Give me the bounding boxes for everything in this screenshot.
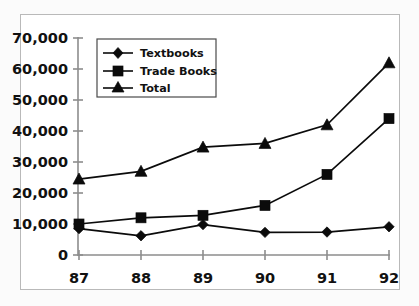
legend-label: Textbooks (140, 47, 204, 60)
y-tick-label: 60,000 (12, 61, 68, 77)
x-tick-label: 88 (131, 270, 151, 286)
square-marker (260, 200, 270, 210)
diamond-marker (260, 227, 270, 237)
square-marker (198, 210, 208, 220)
diamond-marker (198, 219, 208, 229)
series-line (79, 225, 389, 236)
x-tick-label: 90 (255, 270, 275, 286)
square-marker (74, 219, 84, 229)
triangle-marker (383, 57, 395, 68)
y-tick-label: 50,000 (12, 92, 68, 108)
y-axis-labels: 70,000 60,000 50,000 40,000 30,000 20,00… (12, 30, 68, 263)
legend-item-trade-books[interactable]: Trade Books (103, 65, 217, 78)
y-tick-label: 30,000 (12, 154, 68, 170)
diamond-marker (384, 222, 394, 232)
y-tick-label: 70,000 (12, 30, 68, 46)
series-textbooks (74, 219, 394, 241)
line-chart: 70,000 60,000 50,000 40,000 30,000 20,00… (0, 0, 419, 306)
x-axis-labels: 87 88 89 90 91 92 (69, 270, 399, 286)
square-marker (322, 169, 332, 179)
y-tick-label: 0 (58, 247, 68, 263)
chart-legend: Textbooks Trade Books Total (97, 39, 217, 97)
diamond-marker (322, 227, 332, 237)
y-tick-label: 20,000 (12, 185, 68, 201)
y-tick-label: 10,000 (12, 216, 68, 232)
chart-plot-area: 70,000 60,000 50,000 40,000 30,000 20,00… (0, 0, 419, 306)
x-tick-label: 91 (317, 270, 337, 286)
square-marker (113, 66, 123, 76)
chart-figure: 70,000 60,000 50,000 40,000 30,000 20,00… (0, 0, 419, 306)
square-marker (384, 114, 394, 124)
series-trade-books (74, 114, 394, 229)
y-tick-label: 40,000 (12, 123, 68, 139)
diamond-marker (136, 231, 146, 241)
legend-label: Total (140, 82, 171, 95)
x-tick-label: 92 (379, 270, 399, 286)
legend-item-textbooks[interactable]: Textbooks (103, 47, 204, 60)
legend-label: Trade Books (140, 65, 217, 78)
triangle-marker (135, 165, 147, 176)
square-marker (136, 213, 146, 223)
x-tick-label: 87 (69, 270, 89, 286)
x-tick-label: 89 (193, 270, 213, 286)
series-line (79, 119, 389, 224)
